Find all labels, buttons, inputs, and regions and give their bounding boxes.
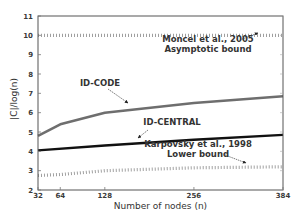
x-tick-label: 384 [276, 192, 291, 200]
annotation-arrow-icon [108, 89, 128, 103]
y-tick-label: 9 [28, 51, 33, 59]
annotations: Moncel et al., 2005Asymptotic boundID-CO… [80, 33, 258, 163]
x-axis-ticks: 3264128256384 [33, 187, 290, 200]
y-axis-label: |C|/log(n) [9, 78, 19, 120]
annotation-text: ID-CODE [80, 78, 120, 88]
x-tick-label: 32 [33, 192, 43, 200]
x-tick-label: 64 [55, 192, 65, 200]
y-tick-label: 5 [28, 129, 33, 137]
annotation-text: Asymptotic bound [164, 44, 251, 54]
y-tick-label: 4 [28, 148, 33, 156]
x-axis-label: Number of nodes (n) [114, 201, 207, 211]
annotation-arrow-icon [138, 130, 148, 138]
series-line-karpovsky-et-al-1998-lower-bound [38, 167, 283, 176]
y-tick-label: 11 [23, 13, 33, 21]
y-tick-label: 2 [28, 187, 33, 195]
annotation-idcentral: ID-CENTRAL [138, 117, 201, 138]
x-tick-label: 128 [98, 192, 113, 200]
annotation-text: Karpovsky et al., 1998 [144, 139, 252, 149]
annotation-moncel: Moncel et al., 2005Asymptotic bound [162, 33, 258, 54]
annotation-text: Moncel et al., 2005 [162, 34, 254, 44]
y-tick-label: 7 [28, 90, 33, 98]
annotation-arrow-icon [225, 155, 246, 163]
series-layer [38, 35, 283, 175]
annotation-text: Lower bound [167, 149, 229, 159]
annotation-karpovsky: Karpovsky et al., 1998Lower bound [144, 139, 252, 163]
y-tick-label: 3 [28, 167, 33, 175]
annotation-idcode: ID-CODE [80, 78, 128, 103]
chart: 3264128256384 234567891011 Moncel et al.… [0, 0, 302, 220]
annotation-text: ID-CENTRAL [143, 117, 201, 127]
y-tick-label: 8 [28, 71, 33, 79]
x-tick-label: 256 [187, 192, 202, 200]
y-tick-label: 6 [28, 109, 33, 117]
y-tick-label: 10 [23, 32, 33, 40]
